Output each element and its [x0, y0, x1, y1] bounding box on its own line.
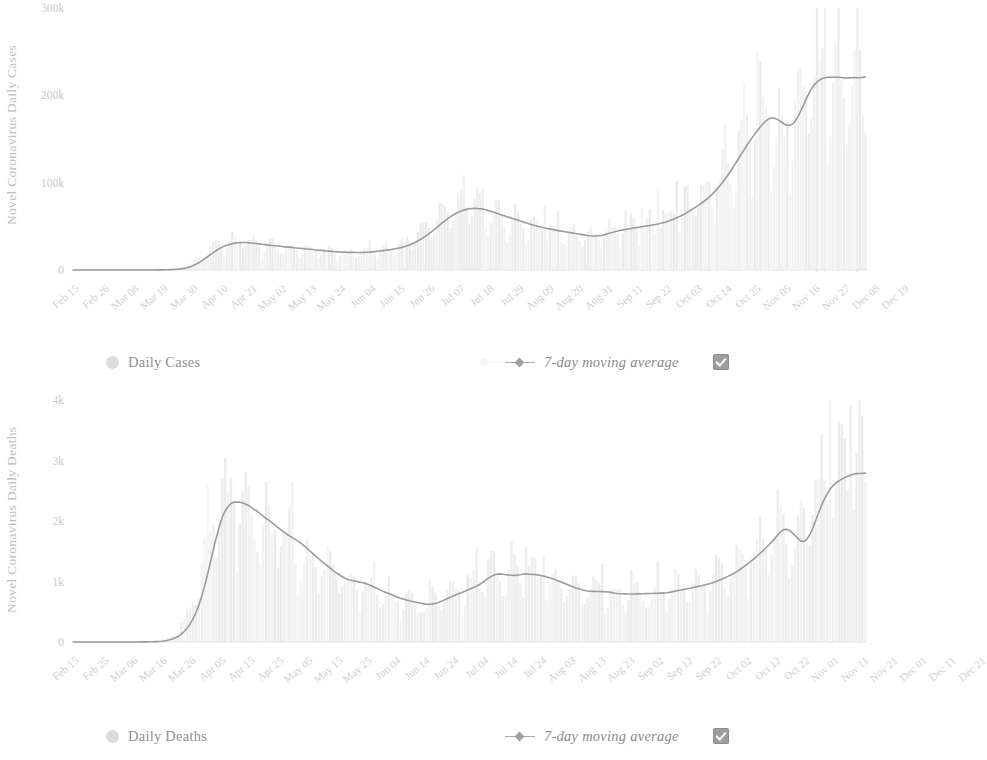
- y-tick-deaths: 1k: [53, 576, 65, 588]
- line-swatch-icon: [505, 730, 535, 743]
- legend-label-moving-average-deaths: 7-day moving average: [544, 728, 679, 745]
- y-axis-ticks-deaths: 01k2k3k4k: [0, 400, 64, 642]
- legend-label-moving-average-cases: 7-day moving average: [544, 354, 679, 371]
- bars-swatch-icon: [106, 730, 119, 743]
- y-tick-cases: 300k: [41, 2, 64, 14]
- legend-item-moving-average-cases[interactable]: 7-day moving average: [505, 349, 729, 375]
- bars-swatch-icon: [106, 356, 119, 369]
- plot-area-cases: [72, 8, 867, 270]
- chart-svg-cases: [72, 8, 867, 272]
- y-tick-cases: 100k: [41, 177, 64, 189]
- chart-panel-deaths: Novel Coronavirus Daily Deaths 01k2k3k4k…: [0, 385, 875, 760]
- legend-item-daily-cases[interactable]: Daily Cases: [106, 349, 200, 375]
- legend-label-daily-cases: Daily Cases: [128, 354, 200, 371]
- y-tick-deaths: 3k: [53, 455, 65, 467]
- y-axis-ticks-cases: 0100k200k300k: [0, 8, 64, 270]
- legend-item-moving-average-deaths[interactable]: 7-day moving average: [505, 723, 729, 749]
- y-tick-cases: 0: [58, 264, 64, 276]
- legend-item-daily-deaths[interactable]: Daily Deaths: [106, 723, 207, 749]
- y-tick-deaths: 0: [58, 636, 64, 648]
- y-tick-deaths: 4k: [53, 394, 65, 406]
- x-axis-ticks-deaths: Feb 15Feb 25Mar 06Mar 16Mar 26Apr 05Apr …: [0, 650, 875, 720]
- legend-deaths: Daily Deaths 7-day moving average: [0, 723, 875, 753]
- line-swatch-icon: [505, 356, 535, 369]
- chart-svg-deaths: [72, 400, 867, 644]
- bars-deaths: [125, 400, 867, 644]
- y-tick-cases: 200k: [41, 89, 64, 101]
- moving-average-checkbox-cases[interactable]: [713, 354, 729, 370]
- legend-ghost-marker-icon: [480, 356, 506, 369]
- legend-cases: Daily Cases 7-day moving average: [0, 349, 875, 379]
- bars-cases: [121, 8, 867, 272]
- y-tick-deaths: 2k: [53, 515, 65, 527]
- x-axis-ticks-cases: Feb 15Feb 26Mar 08Mar 19Mar 30Apr 10Apr …: [0, 278, 875, 348]
- chart-panel-cases: Novel Coronavirus Daily Cases 0100k200k3…: [0, 0, 875, 385]
- plot-area-deaths: [72, 400, 867, 642]
- legend-label-daily-deaths: Daily Deaths: [128, 728, 207, 745]
- moving-average-checkbox-deaths[interactable]: [713, 728, 729, 744]
